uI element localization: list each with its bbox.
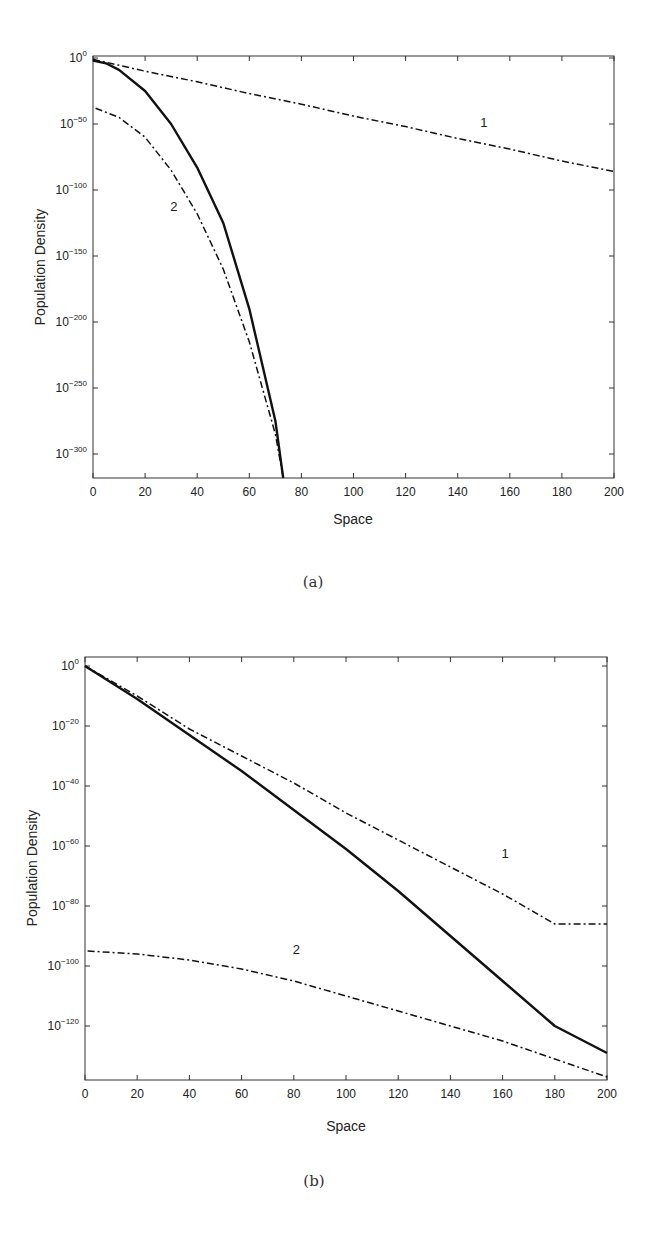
figure: 020406080100120140160180200 10010−5010−1… (0, 0, 654, 1251)
curve-labels-b: 12 (293, 846, 509, 957)
x-tick-label: 0 (90, 485, 97, 499)
y-axis-title-a: Population Density (32, 209, 48, 326)
x-tick-label: 40 (183, 1087, 197, 1101)
curve-label: 2 (293, 942, 300, 957)
y-ticks-b: 10010−2010−4010−6010−8010−10010−120 (48, 657, 607, 1033)
x-tick-label: 20 (138, 485, 152, 499)
x-tick-label: 100 (343, 485, 363, 499)
x-axis-title-b: Space (326, 1118, 366, 1134)
x-tick-label: 120 (388, 1087, 408, 1101)
curve-solid (93, 61, 283, 478)
curve-solid (85, 666, 607, 1053)
x-tick-label: 20 (131, 1087, 145, 1101)
curve-label: 1 (502, 846, 509, 861)
y-tick-label: 10−300 (56, 445, 88, 461)
y-tick-label: 10−80 (52, 897, 79, 913)
plot-frame-b (85, 657, 607, 1080)
plot-frame-a (93, 56, 614, 478)
y-tick-label: 10−120 (48, 1017, 80, 1033)
y-tick-label: 10−100 (48, 957, 80, 973)
x-tick-label: 180 (552, 485, 572, 499)
curve-curve-2 (96, 108, 284, 478)
curve-label: 1 (480, 115, 487, 130)
y-tick-label: 10−100 (56, 181, 88, 197)
x-tick-label: 200 (604, 485, 624, 499)
curve-curve-1 (93, 59, 614, 171)
x-tick-label: 120 (396, 485, 416, 499)
y-axis-title-b: Population Density (24, 810, 40, 927)
chart-panel-b: 020406080100120140160180200 10010−2010−4… (24, 657, 617, 1190)
curve-label: 2 (170, 199, 177, 214)
x-tick-label: 180 (545, 1087, 565, 1101)
x-tick-label: 140 (448, 485, 468, 499)
y-tick-label: 100 (61, 657, 79, 673)
curve-curve-2 (88, 951, 607, 1077)
curve-curve-1 (85, 666, 607, 924)
y-ticks-a: 10010−5010−10010−15010−20010−25010−300 (56, 49, 614, 461)
x-tick-label: 160 (493, 1087, 513, 1101)
x-tick-label: 100 (336, 1087, 356, 1101)
y-tick-label: 10−150 (56, 247, 88, 263)
y-tick-label: 10−20 (52, 717, 79, 733)
caption-a: (a) (303, 573, 324, 591)
y-tick-label: 100 (69, 49, 87, 65)
x-axis-title-a: Space (333, 511, 373, 527)
curve-labels-a: 12 (170, 115, 487, 214)
caption-b: (b) (303, 1172, 324, 1190)
x-tick-label: 140 (440, 1087, 460, 1101)
curves-b (85, 666, 607, 1077)
x-tick-label: 60 (243, 485, 257, 499)
y-tick-label: 10−50 (60, 115, 87, 131)
x-tick-label: 160 (500, 485, 520, 499)
y-tick-label: 10−250 (56, 379, 88, 395)
y-tick-label: 10−200 (56, 313, 88, 329)
x-tick-label: 200 (597, 1087, 617, 1101)
x-tick-label: 60 (235, 1087, 249, 1101)
y-tick-label: 10−60 (52, 837, 79, 853)
x-tick-label: 80 (287, 1087, 301, 1101)
x-tick-label: 80 (295, 485, 309, 499)
curves-a (93, 59, 614, 478)
y-tick-label: 10−40 (52, 777, 79, 793)
chart-panel-a: 020406080100120140160180200 10010−5010−1… (32, 49, 624, 591)
x-ticks-b: 020406080100120140160180200 (82, 657, 618, 1101)
x-tick-label: 0 (82, 1087, 89, 1101)
x-tick-label: 40 (191, 485, 205, 499)
